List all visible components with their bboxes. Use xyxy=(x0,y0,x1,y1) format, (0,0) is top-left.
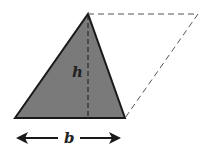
triangle-area-diagram: h b xyxy=(0,0,209,153)
triangle xyxy=(15,14,125,118)
base-label: b xyxy=(64,129,75,147)
height-label: h xyxy=(72,63,83,81)
